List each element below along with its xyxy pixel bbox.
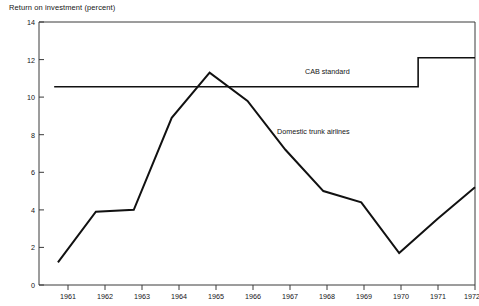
y-label-4: 4 bbox=[31, 206, 35, 215]
x-label-1966: 1966 bbox=[245, 292, 261, 301]
annotation-domestic-trunk-airlines: Domestic trunk airlines bbox=[277, 127, 350, 136]
x-label-1961: 1961 bbox=[60, 292, 76, 301]
chart-svg: 14 12 10 8 6 4 2 0 1961 1962 bbox=[0, 0, 479, 306]
y-label-10: 10 bbox=[27, 93, 35, 102]
x-label-1963: 1963 bbox=[134, 292, 150, 301]
x-label-1962: 1962 bbox=[97, 292, 113, 301]
y-label-2: 2 bbox=[31, 243, 35, 252]
x-label-1971: 1971 bbox=[430, 292, 446, 301]
x-axis-ticks bbox=[68, 285, 475, 290]
x-label-1967: 1967 bbox=[282, 292, 298, 301]
y-axis-ticks bbox=[39, 22, 44, 285]
x-label-1972: 1972 bbox=[464, 292, 479, 301]
x-label-1970: 1970 bbox=[393, 292, 409, 301]
y-label-14: 14 bbox=[27, 18, 35, 27]
x-axis-labels: 1961 1962 1963 1964 1965 1966 1967 1968 … bbox=[60, 292, 479, 301]
annotation-cab-standard: CAB standard bbox=[305, 67, 350, 76]
chart-container: Return on investment (percent) 14 12 10 … bbox=[0, 0, 479, 306]
series-line-domestic-trunk-airlines bbox=[58, 73, 475, 263]
y-axis-labels: 14 12 10 8 6 4 2 0 bbox=[27, 18, 35, 290]
y-label-6: 6 bbox=[31, 168, 35, 177]
x-label-1968: 1968 bbox=[319, 292, 335, 301]
series-line-cab-standard bbox=[54, 58, 475, 87]
axis-frame bbox=[39, 22, 475, 285]
x-label-1969: 1969 bbox=[356, 292, 372, 301]
y-label-12: 12 bbox=[27, 56, 35, 65]
x-label-1964: 1964 bbox=[171, 292, 187, 301]
y-label-8: 8 bbox=[31, 131, 35, 140]
y-label-0: 0 bbox=[31, 281, 35, 290]
x-label-1965: 1965 bbox=[208, 292, 224, 301]
